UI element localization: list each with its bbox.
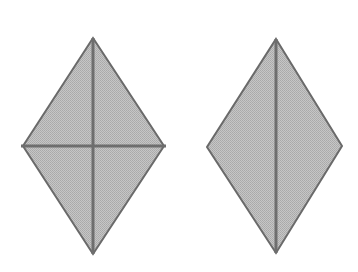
figure-canvas: [0, 0, 358, 272]
figure-svg: [0, 0, 358, 272]
